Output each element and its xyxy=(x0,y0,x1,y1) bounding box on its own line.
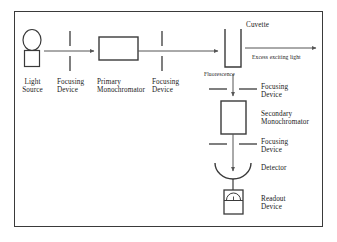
focusing-device-4-label: Focusing Device xyxy=(261,138,288,155)
primary-monochromator-label-line1: Primary xyxy=(97,78,145,86)
secondary-monochromator-label-line1: Secondary xyxy=(261,110,309,118)
focusing-device-1-label-line1: Focusing xyxy=(57,78,84,86)
light-source-label-line2: Source xyxy=(20,86,45,94)
primary-monochromator-label-line2: Monochromator xyxy=(97,86,145,94)
primary-monochromator-box xyxy=(99,37,138,60)
excess-exciting-light-label: Excess exciting light xyxy=(252,54,301,61)
light-source-label: Light Source xyxy=(20,78,45,95)
focusing-device-1-label: Focusing Device xyxy=(57,78,84,95)
detector-label: Detector xyxy=(261,164,287,172)
primary-monochromator-label: Primary Monochromator xyxy=(97,78,145,95)
diagram-root: Light Source Focusing Device Primary Mon… xyxy=(0,0,337,242)
focusing-device-3-label-line2: Device xyxy=(261,91,288,99)
readout-device-label: Readout Device xyxy=(261,195,286,212)
secondary-monochromator-box xyxy=(221,101,246,134)
secondary-monochromator-label: Secondary Monochromator xyxy=(261,110,309,127)
focusing-device-3-label-line1: Focusing xyxy=(261,83,288,91)
focusing-device-1-label-line2: Device xyxy=(57,86,84,94)
fluorescence-label: Fluorescence xyxy=(204,71,235,78)
readout-device-label-line1: Readout xyxy=(261,195,286,203)
light-source-icon xyxy=(23,30,41,67)
light-source-label-line1: Light xyxy=(20,78,45,86)
focusing-device-4-label-line2: Device xyxy=(261,146,288,154)
cuvette-shape xyxy=(225,29,241,67)
readout-device-label-line2: Device xyxy=(261,203,286,211)
focusing-device-3-label: Focusing Device xyxy=(261,83,288,100)
focusing-device-2-label: Focusing Device xyxy=(152,78,179,95)
focusing-device-2-label-line2: Device xyxy=(152,86,179,94)
focusing-device-2-label-line1: Focusing xyxy=(152,78,179,86)
readout-device-icon xyxy=(224,190,243,214)
secondary-monochromator-label-line2: Monochromator xyxy=(261,118,309,126)
cuvette-label: Cuvette xyxy=(246,21,269,29)
focusing-device-4-label-line1: Focusing xyxy=(261,138,288,146)
